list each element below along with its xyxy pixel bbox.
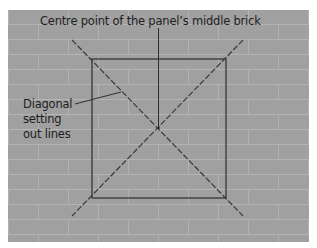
diagonal-label-line-2: setting: [23, 112, 72, 127]
centre-point-label: Centre point of the panel’s middle brick: [40, 14, 261, 29]
centre-point-marker: [157, 127, 159, 129]
diagonal-label-line-3: out lines: [23, 127, 72, 142]
diagonal-label-line-1: Diagonal: [23, 97, 72, 112]
diagonal-lines-label: Diagonal setting out lines: [23, 97, 72, 142]
